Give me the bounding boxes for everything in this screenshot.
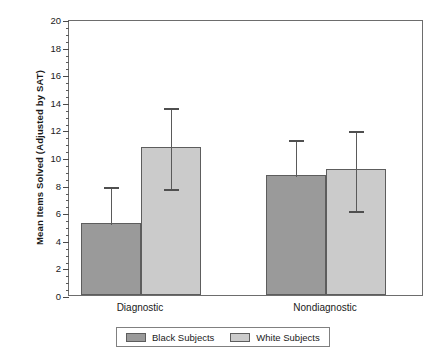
legend-swatch-white-subjects xyxy=(230,333,250,342)
error-bar-line xyxy=(171,108,172,189)
y-axis-tick: 0 xyxy=(69,297,70,298)
y-axis-minor-tick xyxy=(69,173,70,174)
y-axis-minor-tick xyxy=(69,194,70,195)
y-axis-tick-label: 8 xyxy=(56,181,61,192)
y-axis-minor-tick xyxy=(69,35,70,36)
error-bar-cap-upper xyxy=(289,140,304,142)
y-axis-minor-tick xyxy=(69,145,70,146)
y-axis-tick: 4 xyxy=(69,242,70,243)
x-axis-label-diagnostic: Diagnostic xyxy=(70,302,210,313)
y-axis-minor-tick xyxy=(69,207,70,208)
y-axis-tick: 2 xyxy=(69,269,70,270)
y-axis-minor-tick xyxy=(69,283,70,284)
y-axis-tick-mark xyxy=(63,49,69,50)
error-bar-cap-upper xyxy=(349,131,364,133)
y-axis-minor-tick xyxy=(69,152,70,153)
bar-chart: Mean Items Solved (Adjusted by SAT) 0246… xyxy=(0,0,436,355)
y-axis-minor-tick xyxy=(69,125,70,126)
y-axis-minor-tick xyxy=(69,249,70,250)
error-bar-line xyxy=(111,187,112,226)
error-bar-cap-upper xyxy=(104,187,119,189)
y-axis-tick: 6 xyxy=(69,214,70,215)
bar-black-subjects-diagnostic xyxy=(81,223,141,295)
y-axis-tick-label: 12 xyxy=(50,125,61,136)
y-axis-minor-tick xyxy=(69,276,70,277)
y-axis-minor-tick xyxy=(69,56,70,57)
y-axis-minor-tick xyxy=(69,90,70,91)
y-axis-minor-tick xyxy=(69,42,70,43)
y-axis-minor-tick xyxy=(69,69,70,70)
y-axis-tick-label: 2 xyxy=(56,263,61,274)
y-axis-tick-label: 20 xyxy=(50,15,61,26)
y-axis-minor-tick xyxy=(69,221,70,222)
y-axis-tick: 18 xyxy=(69,49,70,50)
y-axis-minor-tick xyxy=(69,138,70,139)
y-axis-tick-mark xyxy=(63,214,69,215)
y-axis-tick-mark xyxy=(63,159,69,160)
y-axis-tick-mark xyxy=(63,187,69,188)
y-axis-minor-tick xyxy=(69,111,70,112)
y-axis-tick-label: 18 xyxy=(50,43,61,54)
y-axis-tick: 8 xyxy=(69,187,70,188)
error-bar-line xyxy=(296,140,297,177)
y-axis-title: Mean Items Solved (Adjusted by SAT) xyxy=(34,23,45,293)
y-axis-tick: 16 xyxy=(69,76,70,77)
legend-swatch-black-subjects xyxy=(126,333,146,342)
y-axis-minor-tick xyxy=(69,256,70,257)
x-axis-label-nondiagnostic: Nondiagnostic xyxy=(255,302,395,313)
y-axis-minor-tick xyxy=(69,228,70,229)
legend-label-white-subjects: White Subjects xyxy=(256,332,319,343)
legend-label-black-subjects: Black Subjects xyxy=(152,332,214,343)
y-axis-tick: 14 xyxy=(69,104,70,105)
chart-legend: Black Subjects White Subjects xyxy=(116,327,330,347)
y-axis-minor-tick xyxy=(69,62,70,63)
y-axis-minor-tick xyxy=(69,290,70,291)
plot-area: 02468101214161820 xyxy=(68,20,423,296)
y-axis-tick-mark xyxy=(63,76,69,77)
error-bar-cap-upper xyxy=(164,108,179,110)
y-axis-tick-label: 6 xyxy=(56,208,61,219)
y-axis-minor-tick xyxy=(69,235,70,236)
legend-item-black-subjects: Black Subjects xyxy=(126,332,214,343)
y-axis-minor-tick xyxy=(69,28,70,29)
y-axis-minor-tick xyxy=(69,97,70,98)
y-axis-tick-mark xyxy=(63,297,69,298)
y-axis-tick-label: 14 xyxy=(50,98,61,109)
bar-black-subjects-nondiagnostic xyxy=(266,175,326,295)
y-axis-tick-mark xyxy=(63,131,69,132)
y-axis-minor-tick xyxy=(69,83,70,84)
y-axis-tick-label: 16 xyxy=(50,70,61,81)
legend-item-white-subjects: White Subjects xyxy=(230,332,319,343)
y-axis-tick-mark xyxy=(63,104,69,105)
y-axis-tick: 20 xyxy=(69,21,70,22)
y-axis-tick-mark xyxy=(63,269,69,270)
y-axis-tick: 12 xyxy=(69,131,70,132)
y-axis-tick-label: 4 xyxy=(56,236,61,247)
y-axis-tick-mark xyxy=(63,242,69,243)
y-axis-tick-label: 10 xyxy=(50,153,61,164)
error-bar-cap-lower xyxy=(164,189,179,191)
y-axis-minor-tick xyxy=(69,263,70,264)
y-axis-tick: 10 xyxy=(69,159,70,160)
y-axis-minor-tick xyxy=(69,166,70,167)
y-axis-minor-tick xyxy=(69,200,70,201)
y-axis-minor-tick xyxy=(69,180,70,181)
y-axis-tick-label: 0 xyxy=(56,291,61,302)
error-bar-line xyxy=(356,131,357,211)
y-axis-minor-tick xyxy=(69,118,70,119)
error-bar-cap-lower xyxy=(349,211,364,213)
y-axis-tick-mark xyxy=(63,21,69,22)
